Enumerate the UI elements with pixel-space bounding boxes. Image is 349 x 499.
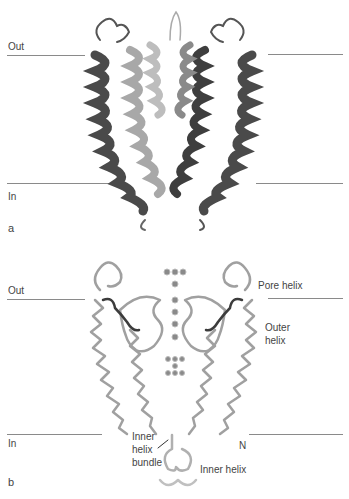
panel-label-b: b bbox=[8, 476, 14, 488]
channel-ribbon-structure-a bbox=[0, 0, 349, 250]
inner-helix-label: Inner helix bbox=[200, 464, 246, 476]
in-label-b: In bbox=[8, 438, 16, 450]
membrane-line-in-left-b bbox=[7, 434, 102, 435]
inner-helix-bundle-label-line1: Inner bbox=[132, 431, 155, 443]
out-label-b: Out bbox=[8, 285, 24, 297]
pore-helix-label: Pore helix bbox=[258, 280, 302, 292]
inner-helix-bundle-label-line3: bundle bbox=[132, 457, 162, 469]
outer-helix-label-line2: helix bbox=[265, 335, 286, 347]
membrane-line-in-right-b bbox=[249, 434, 343, 435]
membrane-line-out-left-b bbox=[7, 299, 85, 300]
n-terminus-label: N bbox=[239, 440, 246, 452]
inner-helix-bundle-label-line2: helix bbox=[132, 444, 153, 456]
membrane-line-out-right-b bbox=[268, 298, 343, 299]
outer-helix-label-line1: Outer bbox=[265, 322, 290, 334]
